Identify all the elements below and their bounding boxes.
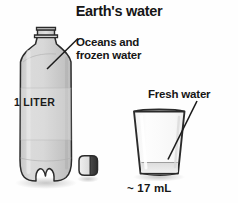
cap-shadow bbox=[77, 176, 99, 183]
earths-water-diagram: Earth's water Oceans and frozen water Fr… bbox=[0, 0, 238, 203]
label-bottle-volume: 1 LITER bbox=[14, 96, 55, 108]
diagram-title: Earth's water bbox=[0, 3, 238, 19]
bottle-collar-ring bbox=[35, 35, 58, 38]
label-oceans-and-frozen-water: Oceans and frozen water bbox=[76, 36, 168, 61]
caption-glass-volume: ~ 17 mL bbox=[127, 182, 172, 194]
cap-body bbox=[79, 156, 98, 176]
label-fresh-water: Fresh water bbox=[148, 88, 210, 100]
bottle-mouth bbox=[37, 28, 56, 31]
bottle-shadow bbox=[15, 177, 77, 189]
bottle-cap-graphic bbox=[79, 156, 98, 176]
